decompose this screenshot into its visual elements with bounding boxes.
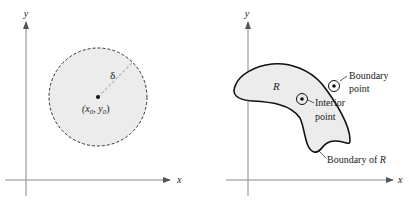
left-x-label: x [176,174,182,185]
interior-point [300,97,304,101]
boundary-of-r-leader [318,150,326,158]
right-panel: y x R Boundary point Interior point Boun… [226,8,403,196]
left-panel: y x δ (x0, y0) [5,8,182,196]
center-point [96,95,100,99]
region-label: R [272,80,280,92]
figure: y x δ (x0, y0) y x R Boundary point Inte… [0,0,409,209]
boundary-point-leader [340,76,347,81]
right-x-label: x [397,174,403,185]
boundary-point-label: Boundary point [349,70,391,94]
radius-label: δ [110,69,115,81]
boundary-of-r-label: Boundary of R [327,154,386,165]
left-y-label: y [23,8,29,19]
boundary-point [332,84,336,88]
right-y-label: y [244,8,250,19]
